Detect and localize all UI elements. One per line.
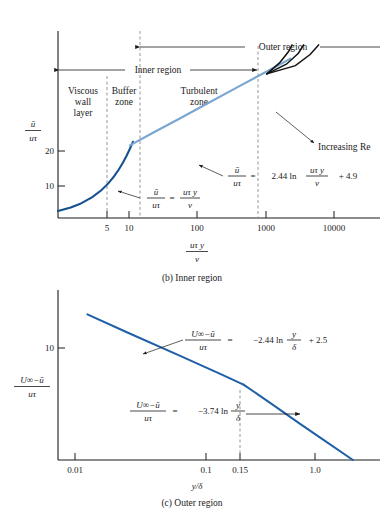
inner-y-axis-label-numerator: ū xyxy=(31,119,36,129)
outer-xtick-label-10: 1.0 xyxy=(309,465,321,475)
outer-xtick-label-015: 0.15 xyxy=(232,465,248,475)
inner-ytick-label-20: 20 xyxy=(45,146,55,156)
zone-label-turbulent-zone: Turbulent zone xyxy=(180,86,217,107)
inner-xtick-label-10: 10 xyxy=(125,223,135,233)
eq-loglaw-lhs-num: ū xyxy=(235,165,240,175)
zone-label-viscous-line-1: Viscous xyxy=(68,86,98,96)
eq-wake-arg-num: y xyxy=(235,400,240,410)
zone-label-viscous-line-2: wall xyxy=(75,97,92,107)
zone-label-viscous-wall-layer: Viscous wall layer xyxy=(68,86,98,118)
eq-wake-equals: = xyxy=(172,406,177,416)
outer-xtick-label-01: 0.1 xyxy=(200,465,211,475)
outer-y-axis-label: U∞−ū uτ xyxy=(14,375,50,399)
zone-label-buffer-zone: Buffer zone xyxy=(112,86,137,107)
eq-viscous-lhs-den: uτ xyxy=(152,200,161,210)
eq-viscous-equals: = xyxy=(169,193,174,203)
zone-label-viscous-line-3: layer xyxy=(74,108,94,118)
panel-outer-region: 10 U∞−ū uτ 0.01 0.1 0.15 1.0 y/δ U∞−ū … xyxy=(14,290,380,509)
zone-label-buffer-line-1: Buffer xyxy=(112,86,137,96)
increasing-re-annotation: Increasing Re xyxy=(276,112,371,152)
caption-inner-region: (b) Inner region xyxy=(162,273,222,284)
inner-region-label: Inner region xyxy=(135,65,182,75)
inner-xtick-label-100: 100 xyxy=(190,223,204,233)
eq-wake-lhs-num: U∞−ū xyxy=(136,400,160,410)
inner-ytick-label-10: 10 xyxy=(45,181,55,191)
outer-xtick-label-001: 0.01 xyxy=(67,465,83,475)
figure-svg: 20 10 5 10 100 1000 10000 ū uτ uτ y ν xyxy=(0,0,385,519)
increasing-re-label: Increasing Re xyxy=(318,142,371,152)
eq-defect-coefficient: −2.44 ln xyxy=(253,335,284,345)
eq-loglaw-lhs-den: uτ xyxy=(233,178,242,188)
eq-defect-equals: = xyxy=(227,335,232,345)
viscous-sublayer-curve xyxy=(58,142,133,211)
eq-wake-coefficient: −3.74 ln xyxy=(198,406,229,416)
eq-wake-lhs-den: uτ xyxy=(144,413,153,423)
outer-region-marker: Outer region xyxy=(140,42,380,52)
outer-ytick-label-10: 10 xyxy=(45,343,55,353)
inner-x-axis-label: uτ y ν xyxy=(186,240,208,264)
inner-x-axis-label-denominator: ν xyxy=(195,254,199,264)
eq-viscous-rhs-den: ν xyxy=(188,200,192,210)
eq-defect-constant: + 2.5 xyxy=(309,335,328,345)
inner-xtick-label-5: 5 xyxy=(105,223,110,233)
eq-loglaw-arg-num: uτ y xyxy=(310,165,324,175)
outer-y-axis-label-numerator: U∞−ū xyxy=(20,375,44,385)
equation-wake-law: U∞−ū uτ = −3.74 ln y δ xyxy=(130,400,300,423)
figure-root: 20 10 5 10 100 1000 10000 ū uτ uτ y ν xyxy=(0,0,385,519)
eq-viscous-lhs-num: ū xyxy=(154,187,159,197)
equation-log-law: ū uτ = 2.44 ln uτ y ν + 4.9 xyxy=(199,165,358,188)
panel-inner-region: 20 10 5 10 100 1000 10000 ū uτ uτ y ν xyxy=(25,31,380,284)
outer-x-axis-label: y/δ xyxy=(191,481,203,491)
inner-y-axis-label-denominator: uτ xyxy=(29,133,38,143)
eq-defect-arg-num: y xyxy=(291,329,296,339)
eq-loglaw-arg-den: ν xyxy=(315,178,319,188)
zone-label-turbulent-line-1: Turbulent xyxy=(180,86,217,96)
eq-defect-lhs-num: U∞−ū xyxy=(191,329,215,339)
inner-region-marker: Inner region xyxy=(59,65,257,75)
eq-defect-arg-den: δ xyxy=(292,342,297,352)
caption-outer-region: (c) Outer region xyxy=(161,498,222,509)
eq-loglaw-coefficient: 2.44 ln xyxy=(271,171,297,181)
outer-y-axis-label-denominator: uτ xyxy=(28,389,37,399)
inner-xtick-label-10000: 10000 xyxy=(323,223,346,233)
outer-defect-law-curve xyxy=(87,314,243,384)
eq-loglaw-constant: + 4.9 xyxy=(339,171,358,181)
eq-viscous-rhs-num: uτ y xyxy=(183,187,197,197)
eq-defect-lhs-den: uτ xyxy=(199,342,208,352)
equation-viscous-sublayer: ū uτ = uτ y ν xyxy=(118,187,200,210)
equation-defect-law: U∞−ū uτ = −2.44 ln y δ + 2.5 xyxy=(143,329,328,354)
outer-wake-curve xyxy=(244,385,353,460)
inner-y-axis-label: ū uτ xyxy=(25,119,41,143)
eq-loglaw-equals: = xyxy=(250,171,255,181)
inner-xtick-label-1000: 1000 xyxy=(257,223,276,233)
inner-x-axis-label-numerator: uτ y xyxy=(190,240,204,250)
zone-label-buffer-line-2: zone xyxy=(115,97,133,107)
